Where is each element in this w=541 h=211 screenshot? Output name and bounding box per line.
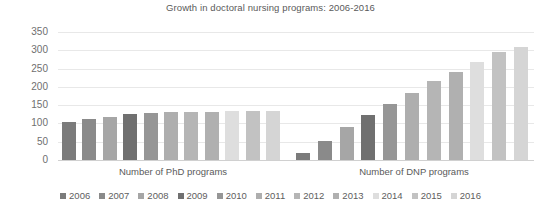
y-axis-tick-label: 250 bbox=[31, 64, 48, 74]
bar-group-dnp bbox=[296, 32, 528, 160]
bar-group-phd bbox=[62, 32, 280, 160]
legend-label: 2007 bbox=[108, 191, 129, 201]
legend-item[interactable]: 2007 bbox=[99, 191, 129, 201]
y-axis-tick-label: 300 bbox=[31, 45, 48, 55]
bar bbox=[62, 122, 76, 160]
axis-baseline bbox=[58, 160, 534, 161]
bar bbox=[123, 114, 137, 160]
y-axis-tick-label: 200 bbox=[31, 82, 48, 92]
y-axis-tick-label: 50 bbox=[37, 137, 48, 147]
legend-label: 2014 bbox=[382, 191, 403, 201]
legend-swatch-icon bbox=[256, 193, 262, 199]
bar-chart: Growth in doctoral nursing programs: 200… bbox=[0, 0, 541, 211]
legend-item[interactable]: 2006 bbox=[60, 191, 90, 201]
legend-swatch-icon bbox=[60, 193, 66, 199]
legend-item[interactable]: 2009 bbox=[178, 191, 208, 201]
legend-label: 2008 bbox=[147, 191, 168, 201]
bar bbox=[103, 117, 117, 160]
legend-swatch-icon bbox=[217, 193, 223, 199]
bar bbox=[184, 112, 198, 160]
bar bbox=[205, 112, 219, 160]
legend-label: 2011 bbox=[265, 191, 285, 201]
chart-title: Growth in doctoral nursing programs: 200… bbox=[0, 2, 541, 13]
legend-swatch-icon bbox=[138, 193, 144, 199]
legend-item[interactable]: 2013 bbox=[333, 191, 363, 201]
y-axis-tick-label: 150 bbox=[31, 100, 48, 110]
legend-label: 2010 bbox=[226, 191, 247, 201]
bar bbox=[318, 141, 332, 160]
bar bbox=[340, 127, 354, 160]
legend-label: 2009 bbox=[187, 191, 208, 201]
category-label-dnp: Number of DNP programs bbox=[294, 166, 534, 177]
legend-label: 2006 bbox=[69, 191, 90, 201]
legend-swatch-icon bbox=[178, 193, 184, 199]
legend-swatch-icon bbox=[412, 193, 418, 199]
category-label-phd: Number of PhD programs bbox=[58, 166, 288, 177]
bar bbox=[361, 115, 375, 160]
bar bbox=[296, 153, 310, 160]
bar bbox=[427, 81, 441, 160]
bar bbox=[470, 62, 484, 160]
bar bbox=[449, 72, 463, 160]
y-axis-tick-label: 0 bbox=[42, 155, 48, 165]
legend-item[interactable]: 2011 bbox=[256, 191, 285, 201]
y-axis-tick-label: 100 bbox=[31, 118, 48, 128]
bar bbox=[514, 47, 528, 160]
bar bbox=[266, 111, 280, 160]
legend-label: 2016 bbox=[460, 191, 481, 201]
bar bbox=[144, 113, 158, 160]
bar bbox=[164, 112, 178, 160]
bar bbox=[246, 111, 260, 160]
legend-item[interactable]: 2014 bbox=[373, 191, 403, 201]
y-axis: 050100150200250300350 bbox=[0, 32, 52, 160]
plot-area bbox=[58, 32, 534, 160]
y-axis-tick-label: 350 bbox=[31, 27, 48, 37]
legend-item[interactable]: 2015 bbox=[412, 191, 442, 201]
bar bbox=[82, 119, 96, 160]
legend-swatch-icon bbox=[99, 193, 105, 199]
legend-swatch-icon bbox=[294, 193, 300, 199]
bar bbox=[383, 104, 397, 160]
legend-swatch-icon bbox=[451, 193, 457, 199]
legend-item[interactable]: 2010 bbox=[217, 191, 247, 201]
chart-legend: 2006200720082009201020112012201320142015… bbox=[0, 191, 541, 201]
legend-item[interactable]: 2016 bbox=[451, 191, 481, 201]
legend-item[interactable]: 2008 bbox=[138, 191, 168, 201]
legend-label: 2015 bbox=[421, 191, 442, 201]
legend-swatch-icon bbox=[333, 193, 339, 199]
legend-item[interactable]: 2012 bbox=[294, 191, 324, 201]
legend-label: 2013 bbox=[342, 191, 363, 201]
bar bbox=[405, 93, 419, 160]
legend-label: 2012 bbox=[303, 191, 324, 201]
bar bbox=[225, 111, 239, 160]
bar bbox=[492, 52, 506, 160]
legend-swatch-icon bbox=[373, 193, 379, 199]
